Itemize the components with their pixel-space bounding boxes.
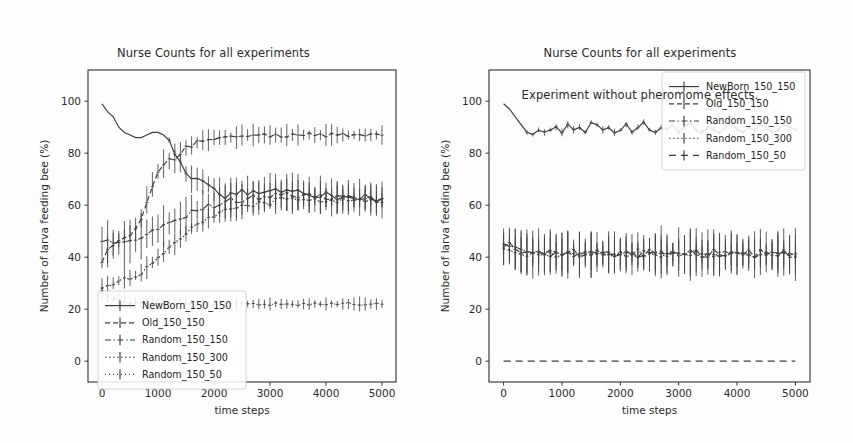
y-tick-label: 100 [61,95,81,107]
series-Random_150_300 [502,229,797,278]
x-axis-label: time steps [622,404,677,416]
x-axis-label: time steps [214,404,269,416]
y-axis-label: Number of larva feeding bee (%) [38,140,50,313]
legend-label: Random_150_300 [706,133,792,145]
y-tick-label: 60 [68,199,81,211]
legend-label: Random_150_150 [142,334,228,346]
panel-right-title: Nurse Counts for all experiments Experim… [427,18,853,130]
x-tick-label: 3000 [257,387,284,399]
x-tick-label: 2000 [607,387,634,399]
y-tick-label: 80 [68,147,81,159]
y-tick-label: 0 [74,355,81,367]
panel-right-title-line-2: Experiment without pheromome effects. [427,88,853,102]
figure-canvas: Nurse Counts for all experiments 0100020… [0,0,853,443]
legend[interactable]: NewBorn_150_150Old_150_150Random_150_150… [98,291,246,389]
series-group [100,104,383,312]
y-axis-label: Number of larva feeding bee (%) [439,140,451,313]
x-tick-label: 0 [500,387,507,399]
legend-label: Random_150_50 [706,150,786,162]
y-tick-label: 20 [68,303,81,315]
x-tick-label: 5000 [782,387,809,399]
chart-panel-left: Nurse Counts for all experiments 0100020… [0,0,427,443]
y-tick-label: 80 [469,147,482,159]
chart-panel-right: Nurse Counts for all experiments Experim… [427,0,853,443]
legend-label: Random_150_50 [142,369,222,381]
y-tick-label: 0 [475,355,482,367]
legend-label: Old_150_150 [142,317,205,329]
x-tick-label: 1000 [549,387,576,399]
y-tick-label: 20 [469,303,482,315]
legend-label: NewBorn_150_150 [142,300,231,312]
legend-label: Random_150_300 [142,352,228,364]
panel-right-title-line-1: Nurse Counts for all experiments [427,46,853,60]
series-NewBorn_150_150 [102,104,384,216]
series-Random_150_300 [100,184,383,298]
x-tick-label: 4000 [724,387,751,399]
x-tick-label: 3000 [665,387,692,399]
x-tick-label: 5000 [369,387,396,399]
panel-left-title-line-1: Nurse Counts for all experiments [0,46,427,60]
y-tick-label: 40 [68,251,81,263]
panel-left-title: Nurse Counts for all experiments [0,18,427,88]
legend-item-Old_150_150[interactable]: Old_150_150 [105,317,205,329]
y-tick-label: 60 [469,199,482,211]
y-tick-label: 40 [469,251,482,263]
x-tick-label: 4000 [313,387,340,399]
series-Random_150_150 [100,177,383,268]
